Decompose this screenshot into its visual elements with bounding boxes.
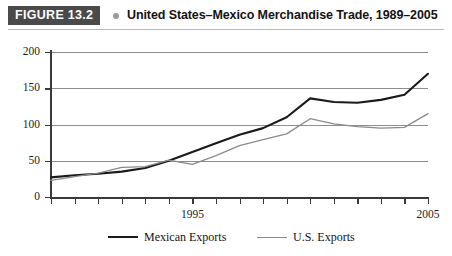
x-axis-label: 2005 [417,208,440,220]
separator-dot-icon [113,13,119,19]
figure-header: FIGURE 13.2 United States–Mexico Merchan… [0,6,452,28]
data-series-plot [51,52,428,199]
y-axis-label: 0 [2,190,40,202]
y-axis-label: 200 [2,45,40,57]
figure-container: FIGURE 13.2 United States–Mexico Merchan… [0,0,452,256]
legend-item-us-exports: U.S. Exports [257,227,355,245]
y-axis-label: 150 [2,81,40,93]
chart-legend: Mexican Exports U.S. Exports [0,227,452,249]
legend-swatch-icon [257,237,287,238]
figure-title: United States–Mexico Merchandise Trade, … [127,6,438,25]
legend-label: U.S. Exports [293,230,355,244]
legend-label: Mexican Exports [144,230,226,244]
legend-swatch-icon [108,236,138,238]
x-axis-label: 1995 [181,208,204,220]
x-axis-tick [428,198,429,204]
header-divider [8,29,444,30]
series-line-u-s-exports [51,114,428,181]
chart-area: 050100150200 19952005 Mexican Exports U.… [0,34,452,256]
y-axis-label: 50 [2,154,40,166]
y-axis-label: 100 [2,118,40,130]
series-line-mexican-exports [51,74,428,178]
figure-number-badge: FIGURE 13.2 [8,6,100,25]
legend-item-mexican-exports: Mexican Exports [108,227,226,245]
